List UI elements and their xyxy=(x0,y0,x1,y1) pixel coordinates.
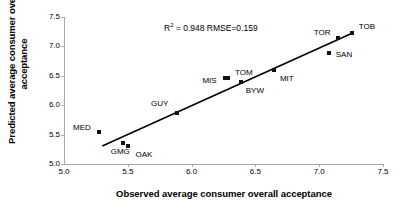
data-point-label: MIT xyxy=(280,75,294,83)
x-tick-label: 6.0 xyxy=(177,168,207,176)
data-point-label: GUY xyxy=(151,100,168,108)
x-tick-text: 5.5 xyxy=(113,168,143,176)
data-point-marker xyxy=(175,111,179,115)
data-point-label: MIS xyxy=(202,77,216,85)
x-axis-line xyxy=(64,164,383,165)
x-tick-text: 7.5 xyxy=(368,168,398,176)
y-tick-text: 5.0 xyxy=(34,160,60,168)
regression-line xyxy=(102,33,353,146)
y-tick-text: 7.5 xyxy=(34,13,60,21)
x-tick-text: 6.5 xyxy=(240,168,270,176)
data-point-marker xyxy=(336,36,340,40)
y-tick-text: 5.5 xyxy=(34,131,60,139)
data-point-label: GMG xyxy=(111,148,130,156)
x-tick-label: 7.5 xyxy=(368,168,398,176)
x-tick-text: 5.0 xyxy=(49,168,79,176)
x-axis-title: Observed average consumer overall accept… xyxy=(64,188,384,199)
x-tick-mark xyxy=(128,164,129,167)
data-point-label: TOB xyxy=(359,23,375,31)
data-point-label: SAN xyxy=(336,51,352,59)
x-tick-mark xyxy=(192,164,193,167)
x-tick-mark xyxy=(319,164,320,167)
data-point-marker xyxy=(97,130,101,134)
x-tick-label: 5.0 xyxy=(49,168,79,176)
data-point-marker xyxy=(327,51,331,55)
x-tick-text: 7.0 xyxy=(304,168,334,176)
y-tick-mark xyxy=(61,164,64,165)
x-tick-mark xyxy=(383,164,384,167)
data-point-marker xyxy=(239,80,243,84)
y-axis-title: Predicted average consumer overall accep… xyxy=(6,0,30,144)
data-point-marker xyxy=(272,68,276,72)
y-tick-mark xyxy=(61,135,64,136)
r2-rmse-annotation: R2 = 0.948 RMSE=0.159 xyxy=(164,22,258,33)
y-tick-mark xyxy=(61,17,64,18)
r2-rmse-values: = 0.948 RMSE=0.159 xyxy=(174,23,258,33)
x-tick-label: 5.5 xyxy=(113,168,143,176)
data-point-marker xyxy=(226,76,230,80)
data-point-label: MED xyxy=(73,124,91,132)
y-tick-text: 6.5 xyxy=(34,72,60,80)
y-tick-mark xyxy=(61,76,64,77)
y-tick-mark xyxy=(61,46,64,47)
y-tick-mark xyxy=(61,105,64,106)
x-tick-label: 7.0 xyxy=(304,168,334,176)
y-tick-text: 7.0 xyxy=(34,42,60,50)
x-tick-label: 6.5 xyxy=(240,168,270,176)
data-point-label: TOM xyxy=(235,69,253,77)
x-tick-text: 6.0 xyxy=(177,168,207,176)
data-point-label: TOR xyxy=(314,29,331,37)
data-point-label: OAK xyxy=(135,151,152,159)
data-point-marker xyxy=(350,31,354,35)
data-point-marker xyxy=(121,141,125,145)
x-tick-mark xyxy=(255,164,256,167)
y-tick-text: 6.0 xyxy=(34,101,60,109)
data-point-marker xyxy=(126,144,130,148)
scatter-chart: Predicted average consumer overall accep… xyxy=(0,0,412,209)
y-axis-line xyxy=(64,17,65,165)
data-point-label: BYW xyxy=(246,87,264,95)
